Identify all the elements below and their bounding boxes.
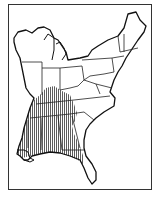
range-map [0, 0, 159, 197]
species-range-area [17, 86, 84, 165]
